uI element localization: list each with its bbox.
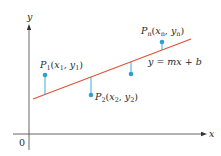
data-point-pn: [160, 40, 165, 45]
least-squares-diagram: y x 0 y = mx + b P1(x1, y1) P2(x2, y2) P…: [0, 0, 221, 156]
point-label-p2: P2(x2, y2): [95, 92, 138, 104]
line-equation-label: y = mx + b: [148, 57, 202, 67]
y-axis-label: y: [27, 12, 32, 22]
x-axis-arrow-icon: [201, 132, 207, 136]
data-point-p3: [129, 72, 134, 77]
point-label-p1: P1(x1, y1): [40, 60, 83, 72]
x-axis-label: x: [209, 129, 214, 139]
data-point-p1: [43, 73, 48, 78]
data-point-p2: [89, 93, 94, 98]
y-axis-arrow-icon: [27, 24, 31, 30]
origin-label: 0: [19, 138, 25, 148]
point-label-pn: Pn(xn, yn): [141, 26, 184, 38]
diagram-graphics: [0, 0, 221, 156]
